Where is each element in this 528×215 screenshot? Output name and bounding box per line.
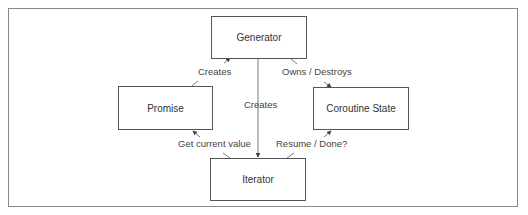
node-promise: Promise [118, 86, 213, 130]
node-label: Iterator [242, 174, 274, 185]
edge-label-resume-done: Resume / Done? [276, 138, 347, 149]
node-label: Coroutine State [326, 103, 396, 114]
node-generator: Generator [211, 16, 307, 59]
node-label: Generator [236, 32, 281, 43]
edge-label-creates-promise: Creates [198, 66, 231, 77]
edge-label-owns-destroys: Owns / Destroys [282, 66, 352, 77]
edge-generator-coroutine [291, 59, 297, 64]
edge-label-get-current-value: Get current value [178, 138, 251, 149]
node-iterator: Iterator [210, 158, 306, 201]
node-label: Promise [147, 103, 184, 114]
node-coroutine-state: Coroutine State [313, 87, 409, 130]
edge-label-creates-iterator: Creates [244, 99, 277, 110]
